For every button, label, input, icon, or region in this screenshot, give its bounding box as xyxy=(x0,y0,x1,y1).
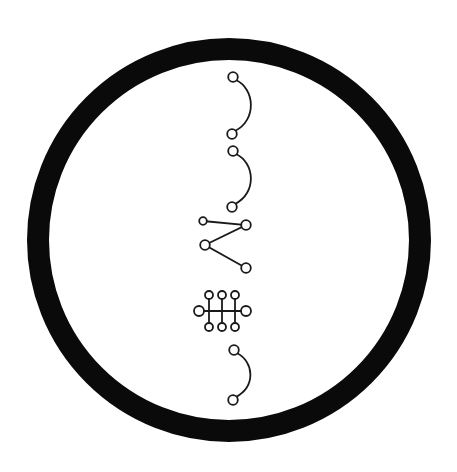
symbol-column xyxy=(194,72,251,405)
rung-top-circle xyxy=(205,291,213,299)
outer-ring xyxy=(38,49,420,431)
arc-stroke xyxy=(235,80,251,131)
symbol-arc-3 xyxy=(228,345,250,405)
symbol-arc-2 xyxy=(227,146,251,212)
symbol-arc-1 xyxy=(227,72,251,139)
rung-bottom-circle xyxy=(205,323,213,331)
arc-stroke xyxy=(236,353,250,397)
arc-stroke xyxy=(235,154,251,204)
crossbar-right-circle xyxy=(241,306,251,316)
rung-bottom-circle xyxy=(231,323,239,331)
end-circle xyxy=(227,129,237,139)
symbol-ladder xyxy=(194,291,251,331)
zigzag-node xyxy=(200,240,210,250)
start-circle xyxy=(228,72,238,82)
start-circle xyxy=(228,146,238,156)
zigzag-node xyxy=(199,217,207,225)
rung-top-circle xyxy=(231,291,239,299)
start-circle xyxy=(229,345,239,355)
sigil-diagram xyxy=(0,0,457,472)
rung-bottom-circle xyxy=(218,323,226,331)
end-circle xyxy=(227,202,237,212)
crossbar-left-circle xyxy=(194,306,204,316)
zigzag-node xyxy=(241,263,251,273)
diagram-canvas xyxy=(0,0,457,472)
zigzag-node xyxy=(241,220,251,230)
rung-top-circle xyxy=(218,291,226,299)
symbol-zigzag xyxy=(199,217,251,273)
end-circle xyxy=(228,395,238,405)
